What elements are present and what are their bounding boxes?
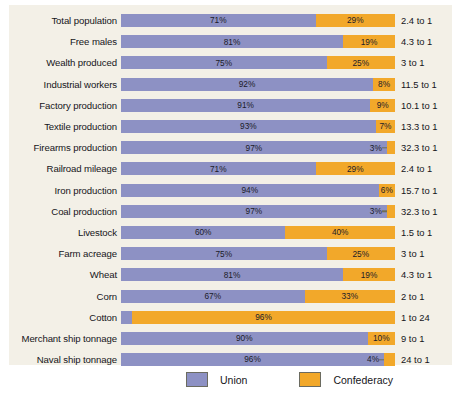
bar-value-confederacy: 25%: [352, 59, 369, 67]
row-ratio-label: 15.7 to 1: [395, 185, 457, 196]
bar-value-confederacy: 3%: [370, 144, 382, 152]
legend-swatch-union: [186, 372, 208, 387]
bar-segment-confederacy: 25%: [327, 56, 396, 69]
stacked-bar: 60%40%: [121, 226, 395, 239]
stacked-bar: 93%7%: [121, 120, 395, 133]
chart-row: Wheat81%19%4.3 to 1: [0, 264, 460, 285]
bar-value-union: 91%: [237, 101, 254, 109]
stacked-bar: 92%8%: [121, 78, 395, 91]
chart-row: Iron production94%6%15.7 to 1: [0, 180, 460, 201]
chart-row: Textile production93%7%13.3 to 1: [0, 116, 460, 137]
bar-segment-union: 91%: [121, 99, 370, 112]
bar-value-union: 92%: [239, 80, 256, 88]
stacked-bar: 97%3%: [121, 205, 395, 218]
bar-value-union: 60%: [195, 228, 212, 236]
bar-value-confederacy: 6%: [381, 186, 393, 194]
bar-value-confederacy: 29%: [347, 16, 364, 24]
legend-item-union: Union: [186, 372, 247, 387]
bar-segment-confederacy: 29%: [316, 14, 395, 27]
bar-segment-confederacy: 4%: [384, 353, 395, 366]
bar-segment-union: 71%: [121, 14, 316, 27]
bar-segment-union: 93%: [121, 120, 376, 133]
bar-segment-confederacy: 3%: [387, 205, 395, 218]
bar-value-union: 96%: [244, 355, 261, 363]
stacked-bar: 81%19%: [121, 35, 395, 48]
value-leader-line: [382, 147, 387, 148]
chart-row: Coal production97%3%32.3 to 1: [0, 201, 460, 222]
row-category-label: Naval ship tonnage: [0, 354, 121, 365]
row-category-label: Railroad mileage: [0, 163, 121, 174]
row-category-label: Cotton: [0, 312, 121, 323]
row-category-label: Farm acreage: [0, 248, 121, 259]
bar-value-union: 75%: [215, 59, 232, 67]
bar-segment-confederacy: 3%: [387, 141, 395, 154]
row-category-label: Firearms production: [0, 142, 121, 153]
row-ratio-label: 2 to 1: [395, 291, 457, 302]
stacked-bar: 90%10%: [121, 332, 395, 345]
bar-segment-confederacy: 9%: [370, 99, 395, 112]
stacked-bar: 71%29%: [121, 162, 395, 175]
bar-segment-union: 97%: [121, 141, 387, 154]
bar-segment-confederacy: 40%: [285, 226, 395, 239]
row-category-label: Wheat: [0, 269, 121, 280]
chart-row: Corn67%33%2 to 1: [0, 285, 460, 306]
stacked-bar: 94%6%: [121, 184, 395, 197]
chart-row: Livestock60%40%1.5 to 1: [0, 222, 460, 243]
row-category-label: Coal production: [0, 206, 121, 217]
bar-value-confederacy: 33%: [341, 292, 358, 300]
chart-row: Wealth produced75%25%3 to 1: [0, 52, 460, 73]
row-ratio-label: 1 to 24: [395, 312, 457, 323]
bar-segment-confederacy: 7%: [376, 120, 395, 133]
row-ratio-label: 24 to 1: [395, 354, 457, 365]
value-leader-line: [382, 211, 387, 212]
chart-row: Naval ship tonnage96%4%24 to 1: [0, 349, 460, 370]
chart-rows: Total population71%29%2.4 to 1Free males…: [0, 10, 460, 370]
bar-segment-union: 75%: [121, 56, 327, 69]
chart-row: Factory production91%9%10.1 to 1: [0, 95, 460, 116]
bar-segment-union: 67%: [121, 290, 305, 303]
bar-segment-union: 71%: [121, 162, 316, 175]
bar-segment-union: 97%: [121, 205, 387, 218]
row-ratio-label: 32.3 to 1: [395, 206, 457, 217]
row-ratio-label: 2.4 to 1: [395, 15, 457, 26]
row-category-label: Iron production: [0, 185, 121, 196]
resources-comparison-chart: Total population71%29%2.4 to 1Free males…: [0, 0, 460, 397]
chart-row: Cotton4%96%1 to 24: [0, 307, 460, 328]
row-ratio-label: 3 to 1: [395, 57, 457, 68]
bar-value-union: 93%: [240, 122, 257, 130]
bar-value-confederacy: 8%: [378, 80, 390, 88]
bar-value-union: 81%: [224, 271, 241, 279]
row-category-label: Textile production: [0, 121, 121, 132]
bar-segment-union: 81%: [121, 35, 343, 48]
bar-value-confederacy: 25%: [352, 250, 369, 258]
row-ratio-label: 11.5 to 1: [395, 79, 457, 90]
bar-segment-union: 96%: [121, 353, 384, 366]
bar-value-confederacy: 3%: [370, 207, 382, 215]
stacked-bar: 81%19%: [121, 268, 395, 281]
bar-segment-confederacy: 25%: [327, 247, 396, 260]
stacked-bar: 91%9%: [121, 99, 395, 112]
bar-value-confederacy: 9%: [377, 101, 389, 109]
bar-value-confederacy: 96%: [255, 313, 272, 321]
bar-value-union: 71%: [210, 165, 227, 173]
bar-value-union: 75%: [215, 250, 232, 258]
bar-segment-confederacy: 10%: [368, 332, 395, 345]
bar-segment-union: 94%: [121, 184, 379, 197]
bar-value-confederacy: 4%: [367, 355, 379, 363]
bar-value-confederacy: 10%: [373, 334, 390, 342]
bar-segment-confederacy: 33%: [305, 290, 395, 303]
row-category-label: Free males: [0, 36, 121, 47]
stacked-bar: 71%29%: [121, 14, 395, 27]
row-category-label: Merchant ship tonnage: [0, 333, 121, 344]
bar-value-confederacy: 29%: [347, 165, 364, 173]
chart-row: Railroad mileage71%29%2.4 to 1: [0, 158, 460, 179]
stacked-bar: 96%4%: [121, 353, 395, 366]
value-leader-line: [379, 359, 384, 360]
bar-segment-union: 90%: [121, 332, 368, 345]
row-category-label: Wealth produced: [0, 57, 121, 68]
stacked-bar: 97%3%: [121, 141, 395, 154]
row-ratio-label: 2.4 to 1: [395, 163, 457, 174]
row-ratio-label: 32.3 to 1: [395, 142, 457, 153]
chart-row: Total population71%29%2.4 to 1: [0, 10, 460, 31]
bar-segment-union: 60%: [121, 226, 285, 239]
